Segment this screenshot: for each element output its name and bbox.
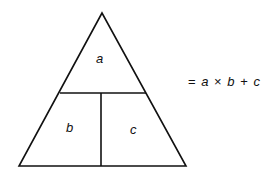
equals-sign: = bbox=[188, 74, 196, 89]
formula-b: b bbox=[227, 74, 234, 89]
cell-top-label: a bbox=[96, 52, 103, 65]
triangle-outline bbox=[19, 13, 186, 166]
cell-bottom-right-label: c bbox=[130, 123, 137, 136]
formula-text: = a × b + c bbox=[188, 75, 260, 88]
plus-sign: + bbox=[240, 74, 248, 89]
formula-a: a bbox=[201, 74, 208, 89]
cell-bottom-left-label: b bbox=[66, 121, 73, 134]
times-sign: × bbox=[214, 74, 222, 89]
formula-c: c bbox=[253, 74, 260, 89]
